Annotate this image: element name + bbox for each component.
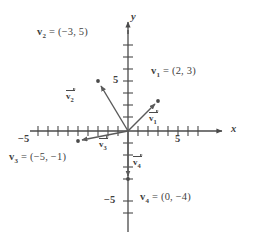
vector-v4-inline-label: v4 bbox=[133, 154, 141, 169]
vector-v2-endpoint-dot bbox=[96, 79, 100, 83]
vector-v2-inline-subscript: 2 bbox=[71, 96, 74, 103]
vector-v2-subscript: 2 bbox=[42, 32, 46, 40]
vector-v1-subscript: 1 bbox=[156, 71, 160, 79]
vector-v4-subscript: 4 bbox=[145, 197, 149, 205]
x-tick-label-neg5: −5 bbox=[18, 134, 29, 145]
overarrow-icon bbox=[99, 136, 107, 140]
vector-diagram: x y −5 5 5 −5 v2 = (−3, 5) v1 = (2, 3) v… bbox=[0, 0, 257, 241]
y-axis-label: y bbox=[131, 12, 136, 23]
overarrow-icon bbox=[66, 88, 74, 92]
x-tick-label-5: 5 bbox=[175, 134, 180, 145]
vector-v3-inline-label: v3 bbox=[99, 136, 107, 151]
vector-v3-coords: = (−5, −1) bbox=[21, 151, 66, 162]
vector-v3-endpoint-dot bbox=[76, 139, 80, 143]
x-axis-label: x bbox=[231, 124, 236, 135]
vector-v2-inline-label: v2 bbox=[66, 88, 74, 103]
overarrow-icon bbox=[133, 154, 141, 158]
vector-v1-inline-label: v1 bbox=[149, 110, 157, 125]
vector-v2-callout: v2 = (−3, 5) bbox=[37, 27, 88, 40]
vector-v1-endpoint-dot bbox=[156, 99, 160, 103]
vector-v1-coords: = (2, 3) bbox=[163, 65, 196, 76]
vector-v4-inline-subscript: 4 bbox=[138, 162, 141, 169]
vector-v2-coords: = (−3, 5) bbox=[49, 26, 88, 37]
vector-v3-callout: v3 = (−5, −1) bbox=[9, 152, 66, 165]
y-tick-label-5: 5 bbox=[113, 75, 118, 86]
vector-v3-inline-subscript: 3 bbox=[104, 144, 107, 151]
vector-v1-inline-subscript: 1 bbox=[154, 118, 157, 125]
vector-v1-callout: v1 = (2, 3) bbox=[151, 66, 196, 79]
vector-v4-coords: = (0, −4) bbox=[152, 191, 191, 202]
overarrow-icon bbox=[149, 110, 157, 114]
vector-v4-endpoint-dot bbox=[126, 177, 130, 181]
vector-v3-subscript: 3 bbox=[14, 157, 18, 165]
y-tick-label-neg5: −5 bbox=[104, 195, 115, 206]
vector-v4 bbox=[126, 131, 130, 181]
vector-v4-callout: v4 = (0, −4) bbox=[140, 192, 191, 205]
